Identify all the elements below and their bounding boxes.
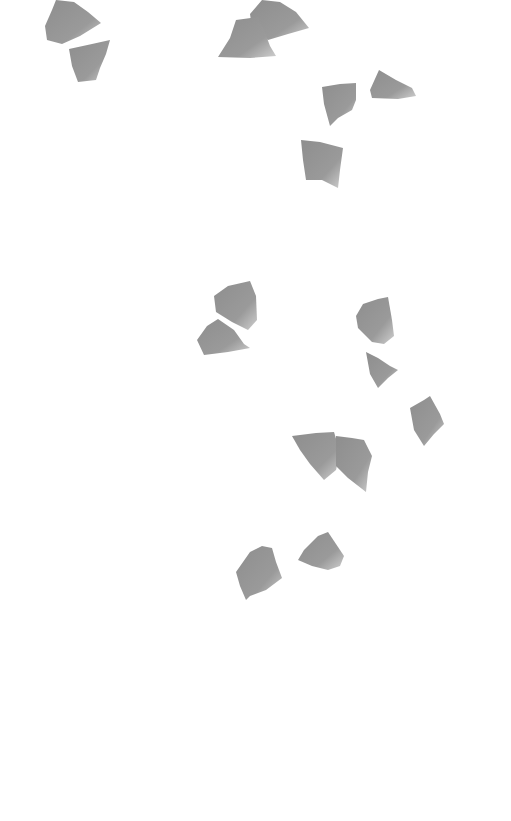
petal-scene [0,0,511,821]
